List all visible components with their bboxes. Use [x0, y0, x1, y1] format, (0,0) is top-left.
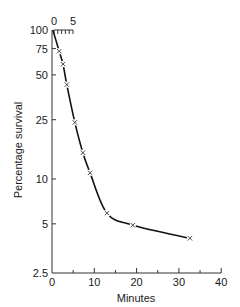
x-axis-title: Minutes: [117, 292, 156, 304]
y-axis-title: Percentage survival: [12, 102, 24, 199]
data-point-marker: [60, 61, 66, 67]
y-tick-label: 50: [36, 69, 48, 81]
y-tick-label: 25: [36, 114, 48, 126]
x-tick-label: 20: [130, 276, 142, 288]
fitted-curve: [53, 30, 190, 238]
y-tick-label: 100: [30, 24, 48, 36]
x-tick-label: 10: [88, 276, 100, 288]
x-tick-label: 40: [215, 276, 227, 288]
y-tick-label: 2.5: [33, 267, 48, 279]
survival-chart: 1007550251052.501020304005 Minutes Perce…: [0, 0, 240, 307]
data-point-marker: [56, 48, 62, 54]
fit-line: [53, 30, 190, 238]
data-point-marker: [104, 210, 110, 216]
data-point-marker: [72, 119, 78, 125]
data-point-marker: [130, 222, 136, 228]
inset-tick-label: 5: [70, 15, 76, 27]
y-tick-label: 75: [36, 43, 48, 55]
data-point-marker: [80, 150, 86, 156]
y-tick-label: 10: [36, 173, 48, 185]
data-point-marker: [187, 235, 193, 241]
axis-labels: 1007550251052.501020304005: [30, 15, 228, 288]
x-tick-label: 0: [49, 276, 55, 288]
x-tick-label: 30: [173, 276, 185, 288]
y-tick-label: 5: [42, 218, 48, 230]
axes: [52, 30, 221, 273]
data-markers: [56, 48, 193, 241]
inset-tick-label: 0: [51, 15, 57, 27]
data-point-marker: [64, 82, 70, 88]
data-point-marker: [87, 170, 93, 176]
